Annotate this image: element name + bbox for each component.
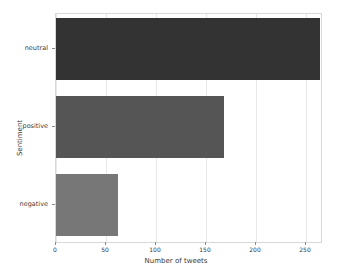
y-tick-mark-neutral [52,48,55,49]
y-tick-label-positive: positive [23,122,49,130]
x-tick-label-0: 0 [53,246,57,253]
bar-chart-figure: 050100150200250 neutralpositivenegative … [0,0,352,276]
bar-positive[interactable] [56,96,224,158]
x-tick-label-200: 200 [249,246,260,253]
bar-negative[interactable] [56,174,118,236]
x-tick-mark-50 [105,242,106,245]
bar-neutral[interactable] [56,18,320,80]
x-tick-label-150: 150 [199,246,210,253]
bar-slot-neutral [56,18,320,80]
x-tick-mark-100 [155,242,156,245]
y-axis-title: Sentiment [16,120,24,156]
x-tick-label-50: 50 [101,246,109,253]
x-tick-label-100: 100 [149,246,160,253]
plot-area [55,13,322,243]
bar-slot-negative [56,174,118,236]
y-tick-label-negative: negative [20,200,48,208]
y-tick-mark-positive [52,126,55,127]
x-tick-mark-0 [55,242,56,245]
x-tick-label-250: 250 [299,246,310,253]
y-tick-label-neutral: neutral [25,44,48,52]
bar-slot-positive [56,96,224,158]
y-tick-mark-negative [52,204,55,205]
x-tick-mark-150 [205,242,206,245]
x-tick-mark-200 [255,242,256,245]
x-axis-title: Number of tweets [0,257,352,265]
x-tick-mark-250 [305,242,306,245]
